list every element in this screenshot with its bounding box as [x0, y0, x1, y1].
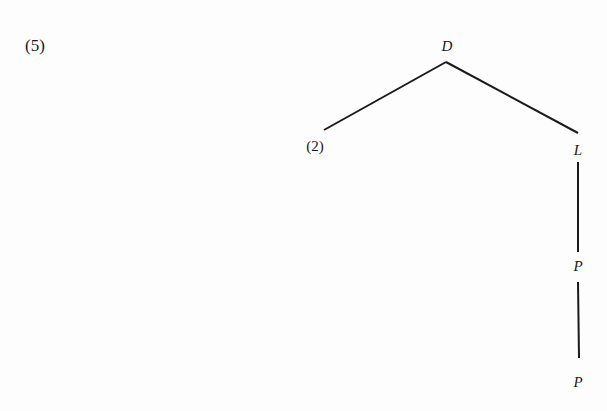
- node-root-d: D: [442, 39, 453, 54]
- edge-p-to-p: [578, 282, 579, 358]
- tree-edges: [0, 0, 607, 411]
- node-left-2: (2): [306, 139, 324, 154]
- edge-d-to-l: [446, 62, 578, 133]
- node-right-l: L: [574, 143, 582, 158]
- node-p-1: P: [573, 259, 582, 274]
- node-p-2: P: [573, 375, 582, 390]
- edge-d-to-2: [324, 62, 446, 130]
